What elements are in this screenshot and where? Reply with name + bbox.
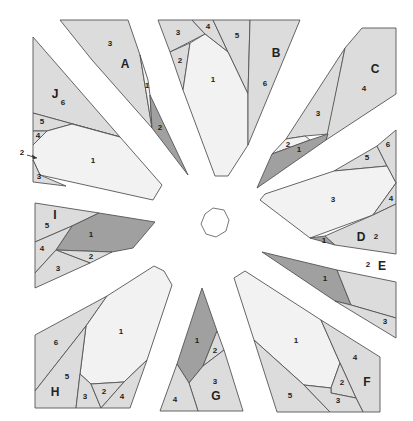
piece-number: 3 bbox=[108, 39, 113, 48]
section-label: A bbox=[121, 57, 130, 71]
piece-number: 1 bbox=[91, 156, 96, 165]
piece-number: 1 bbox=[195, 336, 200, 345]
center-octagon bbox=[201, 208, 229, 237]
piece-number: 1 bbox=[145, 81, 150, 90]
piece-number: 6 bbox=[54, 338, 59, 347]
piece-number: 5 bbox=[365, 153, 370, 162]
section-label: F bbox=[363, 375, 370, 389]
piece-number: 3 bbox=[37, 172, 42, 181]
piece-number: 3 bbox=[316, 109, 321, 118]
piece-number: 1 bbox=[294, 336, 299, 345]
section-g bbox=[160, 288, 243, 411]
piece-number: 2 bbox=[340, 378, 345, 387]
piece-number: 1 bbox=[322, 236, 327, 245]
piece-number: 2 bbox=[286, 140, 291, 149]
piece-number: 3 bbox=[336, 396, 341, 405]
section-label: G bbox=[211, 389, 220, 403]
piece-number: 3 bbox=[56, 264, 61, 273]
piece-a-2 bbox=[150, 95, 188, 175]
piece-number: 3 bbox=[331, 195, 336, 204]
piece-number: 3 bbox=[176, 28, 181, 37]
piece-number: 5 bbox=[45, 221, 50, 230]
piece-number: 4 bbox=[362, 84, 367, 93]
section-label: C bbox=[371, 62, 380, 76]
piece-number: 3 bbox=[383, 317, 388, 326]
piece-h-1 bbox=[80, 266, 172, 384]
piece-number: 1 bbox=[323, 274, 328, 283]
piece-number: 5 bbox=[235, 31, 240, 40]
piece-number: 6 bbox=[386, 140, 391, 149]
section-label: D bbox=[357, 230, 366, 244]
piece-number: 4 bbox=[389, 194, 394, 203]
piece-number: 3 bbox=[213, 377, 218, 386]
piece-number: 4 bbox=[36, 131, 41, 140]
piece-number: 4 bbox=[120, 392, 125, 401]
piece-j-1 bbox=[33, 124, 162, 200]
piece-number: 1 bbox=[211, 75, 216, 84]
piece-number: 4 bbox=[40, 244, 45, 253]
piece-number: 5 bbox=[40, 117, 45, 126]
piece-number: 2 bbox=[102, 387, 107, 396]
piece-number: 2 bbox=[374, 232, 379, 241]
piece-number: 3 bbox=[83, 392, 88, 401]
star-block-diagram: 312A345216B3421C563412D123E14253F1234G61… bbox=[0, 0, 413, 421]
callout-label: 2 bbox=[20, 148, 25, 157]
piece-number: 4 bbox=[353, 353, 358, 362]
piece-number: 1 bbox=[89, 230, 94, 239]
piece-number: 2 bbox=[366, 260, 371, 269]
section-label: H bbox=[51, 385, 60, 399]
piece-number: 6 bbox=[263, 79, 268, 88]
piece-number: 2 bbox=[89, 252, 94, 261]
piece-number: 5 bbox=[65, 372, 70, 381]
piece-number: 2 bbox=[158, 123, 163, 132]
section-label: J bbox=[52, 87, 59, 101]
section-label: E bbox=[378, 259, 386, 273]
section-label: B bbox=[272, 46, 281, 60]
piece-b-6 bbox=[248, 20, 300, 145]
piece-number: 1 bbox=[119, 327, 124, 336]
piece-number: 4 bbox=[206, 22, 211, 31]
piece-number: 2 bbox=[178, 56, 183, 65]
piece-number: 4 bbox=[173, 395, 178, 404]
section-label: I bbox=[53, 208, 56, 222]
piece-number: 6 bbox=[61, 98, 66, 107]
piece-number: 5 bbox=[288, 391, 293, 400]
piece-number: 1 bbox=[297, 145, 302, 154]
piece-number: 2 bbox=[213, 346, 218, 355]
